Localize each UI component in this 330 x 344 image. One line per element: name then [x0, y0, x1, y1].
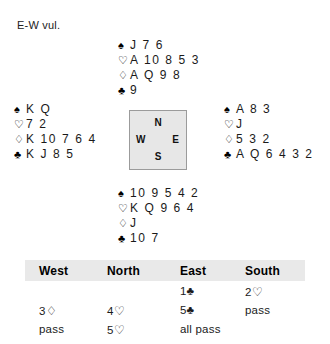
bid-north: 5♡: [107, 323, 125, 337]
hand-south-hearts: ♡ K Q 9 6 4: [118, 201, 199, 216]
heart-icon: ♡: [118, 53, 130, 68]
hand-west-spades: ♠ K Q: [14, 102, 97, 117]
hand-north: ♠ J 7 6 ♡ A 10 8 5 3 ♢ A Q 9 8 ♣ 9: [118, 38, 200, 98]
hand-west: ♠ K Q ♡ 7 2 ♢ K 10 7 6 4 ♣ K J 8 5: [14, 102, 97, 162]
hand-north-spades: ♠ J 7 6: [118, 38, 200, 53]
diamond-icon: ♢: [224, 132, 236, 147]
hand-east-diamonds-cards: 5 3 2: [236, 132, 271, 147]
club-icon: ♣: [14, 147, 26, 162]
hand-south-clubs-cards: 10 7: [130, 231, 160, 246]
hand-west-clubs-cards: K J 8 5: [26, 147, 75, 162]
diamond-icon: ♢: [118, 216, 130, 231]
heart-icon: ♡: [224, 117, 236, 132]
auction-header-west: West: [39, 264, 68, 278]
hand-east-hearts: ♡ J: [224, 117, 314, 132]
auction-row: pass 5♡ all pass: [25, 323, 305, 342]
hand-south-hearts-cards: K Q 9 6 4: [130, 201, 195, 216]
hand-north-hearts-cards: A 10 8 5 3: [130, 53, 200, 68]
hand-west-spades-cards: K Q: [26, 102, 51, 117]
spade-icon: ♠: [14, 102, 26, 117]
hand-north-clubs: ♣ 9: [118, 83, 200, 98]
hand-west-diamonds: ♢ K 10 7 6 4: [14, 132, 97, 147]
compass-north-label: N: [154, 118, 161, 128]
hand-north-spades-cards: J 7 6: [130, 38, 164, 53]
hand-east: ♠ A 8 3 ♡ J ♢ 5 3 2 ♣ A Q 6 4 3 2: [224, 102, 314, 162]
bid-south: pass: [245, 304, 270, 316]
hand-east-spades: ♠ A 8 3: [224, 102, 314, 117]
club-icon: ♣: [224, 147, 236, 162]
hand-east-hearts-cards: J: [236, 117, 244, 132]
club-icon: ♣: [118, 83, 130, 98]
bid-west: 3♢: [39, 304, 57, 318]
auction-table: West North East South 1♣ 2♡ 3♢ 4♡ 5♣ pas…: [25, 260, 305, 342]
hand-south-spades: ♠ 10 9 5 4 2: [118, 186, 199, 201]
auction-header-north: North: [107, 264, 140, 278]
auction-header-south: South: [245, 264, 280, 278]
bid-north: 4♡: [107, 304, 125, 318]
bid-east: all pass: [180, 323, 221, 335]
hand-north-hearts: ♡ A 10 8 5 3: [118, 53, 200, 68]
hand-south-clubs: ♣ 10 7: [118, 231, 199, 246]
heart-icon: ♡: [14, 117, 26, 132]
spade-icon: ♠: [118, 186, 130, 201]
auction-body: 1♣ 2♡ 3♢ 4♡ 5♣ pass pass 5♡ all pass: [25, 285, 305, 342]
hand-west-hearts: ♡ 7 2: [14, 117, 97, 132]
diamond-icon: ♢: [118, 68, 130, 83]
hand-east-clubs: ♣ A Q 6 4 3 2: [224, 147, 314, 162]
spade-icon: ♠: [118, 38, 130, 53]
auction-header-east: East: [180, 264, 206, 278]
compass-east-label: E: [172, 135, 179, 145]
bid-east: 1♣: [180, 285, 194, 297]
hand-north-diamonds-cards: A Q 9 8: [130, 68, 181, 83]
club-icon: ♣: [118, 231, 130, 246]
hand-south-diamonds-cards: J: [130, 216, 138, 231]
spade-icon: ♠: [224, 102, 236, 117]
hand-east-spades-cards: A 8 3: [236, 102, 271, 117]
hand-west-clubs: ♣ K J 8 5: [14, 147, 97, 162]
diamond-icon: ♢: [14, 132, 26, 147]
hand-south: ♠ 10 9 5 4 2 ♡ K Q 9 6 4 ♢ J ♣ 10 7: [118, 186, 199, 246]
compass-south-label: S: [155, 152, 162, 162]
vulnerability-note: E-W vul.: [17, 19, 60, 31]
heart-icon: ♡: [118, 201, 130, 216]
hand-north-diamonds: ♢ A Q 9 8: [118, 68, 200, 83]
auction-row: 1♣ 2♡: [25, 285, 305, 304]
compass-west-label: W: [136, 135, 145, 145]
hand-south-diamonds: ♢ J: [118, 216, 199, 231]
auction-row: 3♢ 4♡ 5♣ pass: [25, 304, 305, 323]
auction-header-row: West North East South: [25, 260, 305, 281]
bid-west: pass: [39, 323, 64, 335]
hand-east-diamonds: ♢ 5 3 2: [224, 132, 314, 147]
bid-south: 2♡: [245, 285, 263, 299]
hand-north-clubs-cards: 9: [130, 83, 138, 98]
hand-east-clubs-cards: A Q 6 4 3 2: [236, 147, 314, 162]
compass-box: N W E S: [129, 110, 187, 170]
hand-west-hearts-cards: 7 2: [26, 117, 47, 132]
hand-west-diamonds-cards: K 10 7 6 4: [26, 132, 97, 147]
hand-south-spades-cards: 10 9 5 4 2: [130, 186, 199, 201]
bid-east: 5♣: [180, 304, 194, 316]
